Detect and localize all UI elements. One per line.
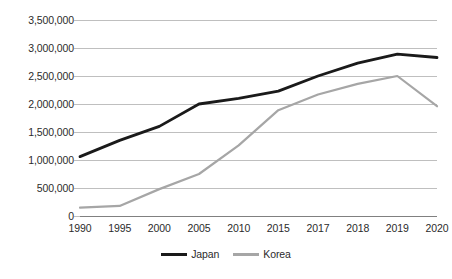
- legend-label: Korea: [263, 248, 291, 260]
- x-axis-tick-label: 2005: [188, 222, 211, 235]
- y-axis-tick-label: 1,000,000: [2, 155, 74, 166]
- y-axis-tick-label: 2,000,000: [2, 99, 74, 110]
- x-axis-tick-label: 2000: [148, 222, 171, 235]
- y-axis-tick-label: 2,500,000: [2, 71, 74, 82]
- y-axis-tick-mark: [74, 20, 80, 21]
- y-axis-tick-mark: [74, 104, 80, 105]
- x-axis-tick-label: 2015: [267, 222, 290, 235]
- x-axis-tick-label: 2010: [227, 222, 250, 235]
- y-axis-tick-mark: [74, 216, 80, 217]
- y-axis-tick-mark: [74, 188, 80, 189]
- x-axis-line: [80, 216, 437, 217]
- chart-legend: JapanKorea: [0, 248, 452, 260]
- line-chart: 3,500,0003,000,0002,500,0002,000,0001,50…: [0, 0, 452, 279]
- x-axis-tick-label: 1990: [69, 222, 92, 235]
- y-axis-tick-mark: [74, 48, 80, 49]
- x-axis-tick-label: 2017: [307, 222, 330, 235]
- y-axis-tick-label: 3,500,000: [2, 15, 74, 26]
- x-axis-tick-label: 2018: [346, 222, 369, 235]
- x-axis-tick-label: 2020: [426, 222, 449, 235]
- y-axis-tick-label: 1,500,000: [2, 127, 74, 138]
- series-line-japan: [80, 54, 437, 156]
- y-axis-tick-mark: [74, 160, 80, 161]
- x-axis-tick-label: 1995: [108, 222, 131, 235]
- y-axis-tick-mark: [74, 76, 80, 77]
- y-axis-tick-label: 3,000,000: [2, 43, 74, 54]
- legend-line-swatch-icon: [161, 253, 187, 256]
- y-axis-tick-mark: [74, 132, 80, 133]
- y-axis-tick-label: 0: [2, 211, 74, 222]
- series-layer: [80, 20, 437, 216]
- legend-item-japan[interactable]: Japan: [161, 248, 219, 260]
- y-axis-tick-label: 500,000: [2, 183, 74, 194]
- y-axis: 3,500,0003,000,0002,500,0002,000,0001,50…: [0, 20, 74, 216]
- legend-item-korea[interactable]: Korea: [233, 248, 291, 260]
- legend-label: Japan: [191, 248, 219, 260]
- legend-line-swatch-icon: [233, 253, 259, 256]
- x-axis: 1990199520002005201020152017201820192020: [80, 222, 437, 238]
- plot-area: [80, 20, 437, 216]
- x-axis-tick-label: 2019: [386, 222, 409, 235]
